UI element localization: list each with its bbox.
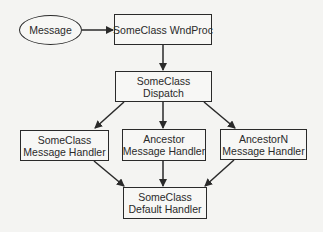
node-label: SomeClass WndProc [113, 24, 213, 36]
node-label-line-1: SomeClass [137, 75, 191, 87]
node-label-line-2: Message Handler [123, 145, 205, 157]
edge-ancestorn-handler-to-default [205, 160, 234, 186]
node-label-line-2: Message Handler [23, 146, 105, 158]
node-ancestor-message-handler: Ancestor Message Handler [122, 129, 206, 161]
edge-dispatch-to-ancestorn-handler [204, 102, 235, 128]
node-someclass-message-handler: SomeClass Message Handler [20, 130, 109, 161]
node-label: Message [29, 24, 72, 36]
node-ancestorn-message-handler: AncestorN Message Handler [220, 129, 307, 160]
edge-someclass-handler-to-default [94, 161, 124, 186]
node-label-line-1: SomeClass [38, 134, 92, 146]
node-label-line-2: Message Handler [222, 145, 304, 157]
node-dispatch: SomeClass Dispatch [115, 71, 212, 102]
node-label-line-1: Ancestor [143, 133, 184, 145]
node-label-line-2: Default Handler [129, 203, 202, 215]
node-wndproc: SomeClass WndProc [114, 14, 212, 45]
edge-dispatch-to-someclass-handler [95, 102, 124, 128]
node-label-line-1: SomeClass [138, 191, 192, 203]
node-label-line-1: AncestorN [239, 133, 288, 145]
node-someclass-default-handler: SomeClass Default Handler [123, 187, 207, 219]
node-message: Message [19, 15, 82, 45]
node-label-line-2: Dispatch [143, 87, 184, 99]
